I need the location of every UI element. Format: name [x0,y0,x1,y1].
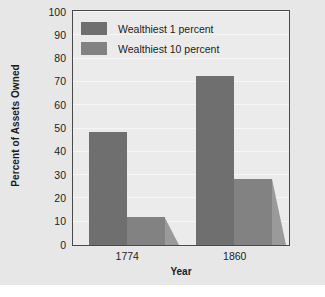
y-axis-tick-labels: 0102030405060708090100 [30,10,70,246]
bottom-strip [0,285,325,297]
plot-area: Wealthiest 1 percent Wealthiest 10 perce… [72,10,290,246]
y-tick-label: 100 [48,6,66,18]
chart-figure: Percent of Assets Owned 0102030405060708… [0,0,325,285]
bar[interactable] [89,132,127,245]
plot-inner: Wealthiest 1 percent Wealthiest 10 perce… [73,11,289,245]
y-tick-label: 80 [54,52,66,64]
legend-item: Wealthiest 1 percent [81,20,271,37]
y-tick-label: 90 [54,29,66,41]
x-tick-label: 1774 [116,250,139,262]
x-axis-tick-labels: 17741860 [72,250,290,266]
x-tick-label: 1860 [223,250,246,262]
bar[interactable] [234,179,272,245]
bar[interactable] [196,76,234,245]
legend-item: Wealthiest 10 percent [81,40,271,57]
y-tick-label: 40 [54,145,66,157]
bar-shadow [165,218,179,245]
y-tick-label: 10 [54,215,66,227]
x-axis-title: Year [72,266,290,277]
y-tick-label: 30 [54,169,66,181]
y-tick-label: 60 [54,99,66,111]
y-axis-title: Percent of Assets Owned [0,0,30,250]
y-axis-title-text: Percent of Assets Owned [10,64,21,187]
legend-label-series-2: Wealthiest 10 percent [118,43,219,55]
legend: Wealthiest 1 percent Wealthiest 10 perce… [81,20,271,60]
y-tick-label: 20 [54,192,66,204]
y-tick-label: 50 [54,122,66,134]
legend-label-series-1: Wealthiest 1 percent [118,23,214,35]
y-tick-label: 70 [54,75,66,87]
bar-shadow [272,179,286,245]
legend-swatch-series-2 [81,42,107,55]
bar[interactable] [127,217,165,245]
y-tick-label: 0 [60,239,66,251]
legend-swatch-series-1 [81,22,107,35]
